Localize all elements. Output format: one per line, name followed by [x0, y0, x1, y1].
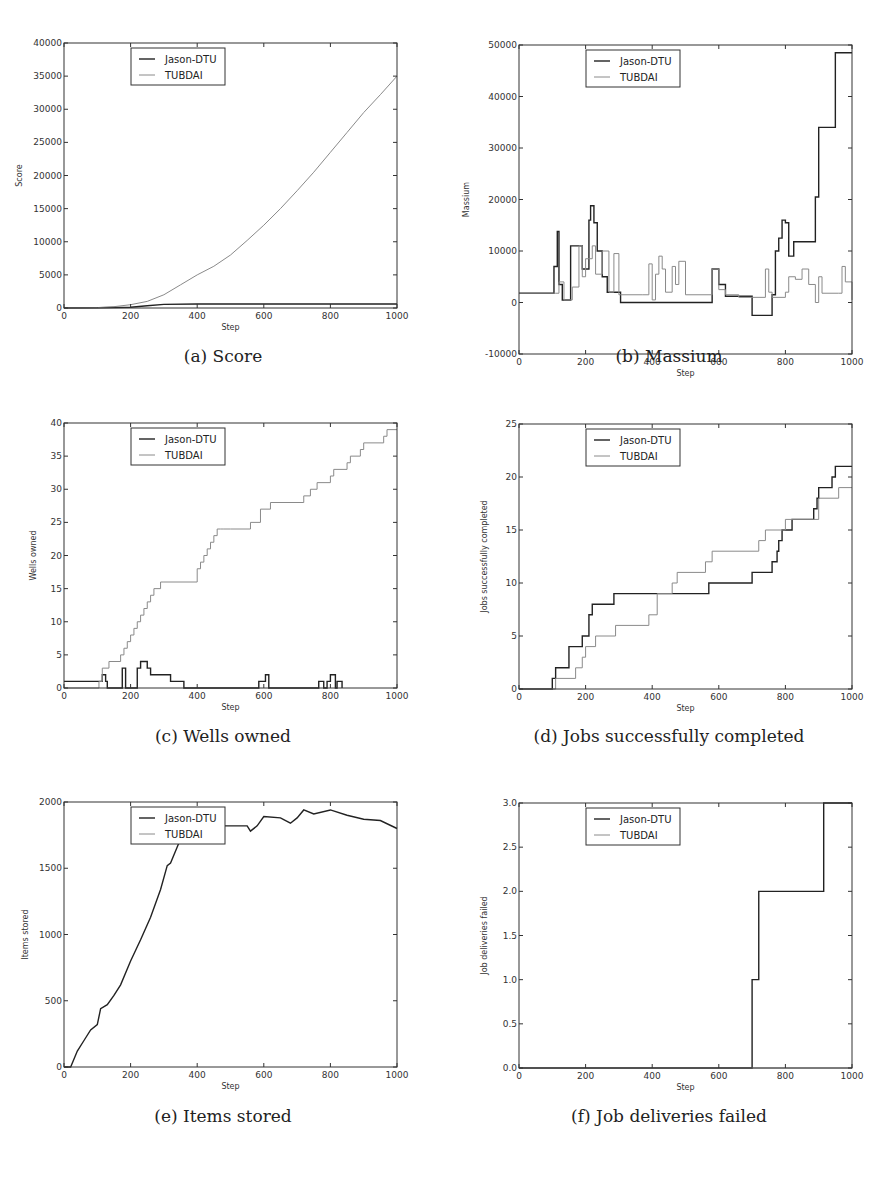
y-tick-label: 0.5: [503, 1019, 517, 1029]
x-tick-label: 800: [777, 1071, 794, 1081]
chart-panel-items: 020040060080010000500100015002000StepIte…: [0, 0, 446, 1179]
legend-entry: TUBDAI: [619, 830, 658, 841]
y-axis-label: Items stored: [21, 909, 30, 959]
chart-panel-failed: 020040060080010000.00.51.01.52.02.53.0St…: [446, 0, 892, 1179]
legend-entry: Jason-DTU: [164, 813, 216, 824]
x-tick-label: 0: [516, 1071, 522, 1081]
x-tick-label: 0: [61, 1070, 67, 1080]
caption-failed: (f) Job deliveries failed: [446, 1106, 892, 1126]
y-tick-label: 1.5: [503, 931, 517, 941]
legend: Jason-DTUTUBDAI: [131, 807, 225, 844]
x-tick-label: 200: [122, 1070, 139, 1080]
x-axis-label: Step: [221, 1082, 239, 1091]
legend: Jason-DTUTUBDAI: [586, 808, 680, 845]
y-tick-label: 2.0: [503, 886, 518, 896]
y-axis-label: Job deliveries failed: [480, 896, 489, 975]
x-axis-label: Step: [676, 1083, 694, 1092]
x-tick-label: 1000: [386, 1070, 409, 1080]
plot-frame: [519, 803, 852, 1068]
y-tick-label: 3.0: [503, 798, 518, 808]
series-jason-dtu: [64, 810, 397, 1067]
series-jason-dtu: [519, 803, 852, 1068]
y-tick-label: 0.0: [503, 1063, 518, 1073]
x-tick-label: 800: [322, 1070, 339, 1080]
y-tick-label: 1500: [39, 863, 62, 873]
failed-chart: 020040060080010000.00.51.01.52.02.53.0St…: [446, 0, 892, 1100]
items-chart: 020040060080010000500100015002000StepIte…: [0, 0, 446, 1100]
y-tick-label: 500: [45, 996, 62, 1006]
x-tick-label: 400: [189, 1070, 206, 1080]
x-tick-label: 200: [577, 1071, 594, 1081]
plot-frame: [64, 802, 397, 1067]
legend-entry: TUBDAI: [164, 829, 203, 840]
y-tick-label: 1000: [39, 930, 62, 940]
legend-entry: Jason-DTU: [619, 814, 671, 825]
y-tick-label: 2.5: [503, 842, 517, 852]
x-tick-label: 600: [710, 1071, 727, 1081]
y-tick-label: 0: [56, 1062, 62, 1072]
x-tick-label: 1000: [841, 1071, 864, 1081]
y-tick-label: 2000: [39, 797, 62, 807]
y-tick-label: 1.0: [503, 975, 518, 985]
caption-items: (e) Items stored: [0, 1106, 446, 1126]
x-tick-label: 400: [644, 1071, 661, 1081]
x-tick-label: 600: [255, 1070, 272, 1080]
